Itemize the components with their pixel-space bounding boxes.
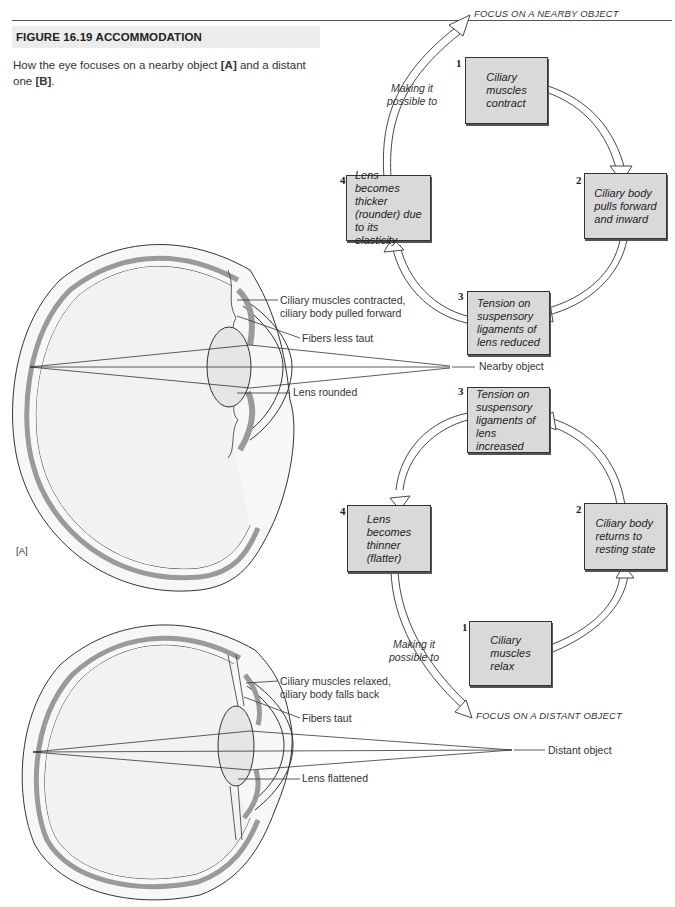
step-text: Ciliary body returns to resting state <box>596 517 656 556</box>
step-text: Lens becomes thicker (rounder) due to it… <box>355 169 422 247</box>
step-box-tension-reduced: Tension on suspensory ligaments of lens … <box>467 291 550 355</box>
step-number: 2 <box>576 174 582 186</box>
step-box-ciliary-returns: Ciliary body returns to resting state <box>584 503 667 570</box>
panel-a-label: [A] <box>16 544 28 557</box>
step-text: Ciliary muscles contract <box>486 71 526 110</box>
step-box-tension-increased: Tension on suspensory ligaments of lens … <box>467 387 550 453</box>
step-number: 4 <box>340 505 346 517</box>
step-box-lens-thinner: Lens becomes thinner (flatter) <box>347 505 431 572</box>
step-text: Tension on suspensory ligaments of lens … <box>477 297 540 349</box>
step-number: 3 <box>458 385 464 397</box>
step-number: 2 <box>576 503 582 515</box>
step-text: Tension on suspensory ligaments of lens … <box>476 388 541 453</box>
step-box-lens-thicker: Lens becomes thicker (rounder) due to it… <box>346 175 431 241</box>
making-possible-label-b: Making it possible to <box>380 638 448 664</box>
diagram-artwork <box>0 0 675 907</box>
step-text: Lens becomes thinner (flatter) <box>367 513 412 565</box>
focus-nearby-label: FOCUS ON A NEARBY OBJECT <box>474 8 619 19</box>
step-box-ciliary-relax: Ciliary muscles relax <box>469 621 552 686</box>
step-text: Ciliary muscles relax <box>490 634 530 673</box>
label-ciliary-relaxed: Ciliary muscles relaxed, ciliary body fa… <box>280 675 391 701</box>
step-box-ciliary-contract: Ciliary muscles contract <box>465 57 548 124</box>
label-ciliary-contracted: Ciliary muscles contracted, ciliary body… <box>280 294 405 320</box>
making-possible-label-a: Making it possible to <box>378 82 446 108</box>
label-lens-flattened: Lens flattened <box>302 772 368 785</box>
label-fibers-less-taut: Fibers less taut <box>302 332 373 345</box>
step-box-ciliary-pulls: Ciliary body pulls forward and inward <box>584 173 667 239</box>
label-fibers-taut: Fibers taut <box>302 712 352 725</box>
step-number: 1 <box>456 57 462 69</box>
focus-distant-label: FOCUS ON A DISTANT OBJECT <box>476 710 622 721</box>
label-nearby-object: Nearby object <box>479 360 544 373</box>
label-lens-rounded: Lens rounded <box>293 386 357 399</box>
label-distant-object: Distant object <box>548 744 612 757</box>
step-text: Ciliary body pulls forward and inward <box>594 187 656 226</box>
step-number: 4 <box>340 174 346 186</box>
step-number: 3 <box>458 290 464 302</box>
eye-b-illustration <box>22 625 545 900</box>
step-number: 1 <box>462 621 468 633</box>
